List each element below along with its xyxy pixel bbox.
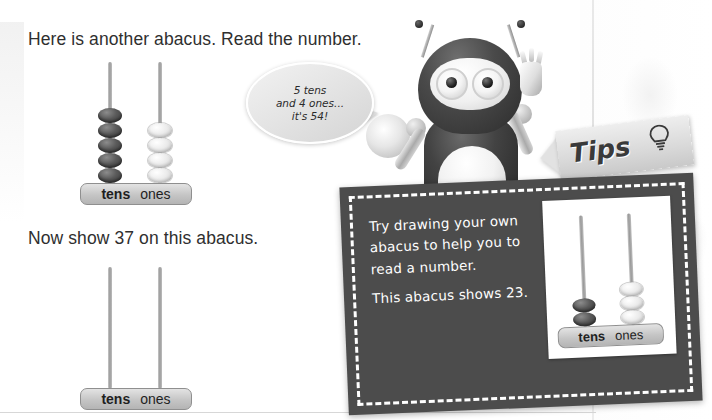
abacus-label-ones: ones xyxy=(615,327,644,343)
student-answer-abacus[interactable]: tens ones xyxy=(80,265,192,410)
worksheet-page: Here is another abacus. Read the number.… xyxy=(0,0,712,420)
lightbulb-icon xyxy=(647,123,672,151)
tens-bead xyxy=(98,108,122,123)
abacus-label-ones: ones xyxy=(140,186,170,202)
robot-antenna-right xyxy=(507,24,520,57)
speech-line-1: 5 tens xyxy=(294,84,327,96)
instruction-text-2: Now show 37 on this abacus. xyxy=(28,228,258,249)
abacus-base: tens ones xyxy=(557,323,664,348)
robot-finger xyxy=(529,48,534,62)
ones-bead xyxy=(620,296,644,311)
abacus-label-tens: tens xyxy=(101,186,130,202)
robot-antenna-tip-right xyxy=(517,20,525,28)
worked-example-abacus: tens ones xyxy=(80,60,192,205)
tips-text-block: Try drawing your own abacus to help you … xyxy=(369,209,555,310)
abacus-label-ones: ones xyxy=(140,391,170,407)
ones-bead xyxy=(621,310,645,325)
tips-example-abacus: tens ones xyxy=(553,210,665,350)
tens-bead xyxy=(98,123,122,138)
robot-hand xyxy=(520,62,542,96)
tens-bead xyxy=(98,153,122,168)
robot-speech-bubble: 5 tens and 4 ones... it's 54! xyxy=(246,62,374,144)
abacus-label-tens: tens xyxy=(101,391,130,407)
speech-line-3: it's 54! xyxy=(292,110,328,122)
tens-bead xyxy=(98,138,122,153)
page-bottom-rule xyxy=(0,412,596,413)
abacus-rod-tens[interactable] xyxy=(108,267,112,389)
abacus-label-tens: tens xyxy=(578,329,605,345)
abacus-base: tens ones xyxy=(80,183,192,205)
robot-antenna-tip-left xyxy=(415,20,423,28)
ones-bead xyxy=(620,282,644,297)
speech-line-2: and 4 ones... xyxy=(276,97,344,109)
tips-abacus-card: tens ones xyxy=(542,196,677,359)
abacus-rod-ones[interactable] xyxy=(158,267,162,389)
abacus-base: tens ones xyxy=(80,388,192,410)
ones-bead xyxy=(148,153,172,168)
tens-bead xyxy=(573,312,597,327)
ones-bead xyxy=(148,138,172,153)
robot-pupil-left xyxy=(446,77,457,88)
instruction-text-1: Here is another abacus. Read the number. xyxy=(28,29,362,50)
tips-box: Try drawing your own abacus to help you … xyxy=(339,173,702,416)
tens-bead xyxy=(572,298,596,313)
robot-pupil-right xyxy=(482,77,493,88)
paper-smudge xyxy=(0,22,24,222)
tens-bead xyxy=(98,168,122,183)
ones-bead xyxy=(148,168,172,183)
ones-bead xyxy=(148,123,172,138)
